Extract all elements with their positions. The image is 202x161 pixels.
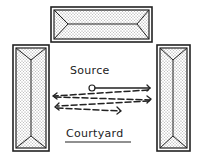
sound-paths [53,85,151,114]
top-building [51,7,152,42]
reflection-arrow-4 [57,108,120,111]
source-point-icon [89,85,95,91]
reflection-arrow-3 [57,101,149,106]
courtyard-diagram: Source Courtyard [0,0,202,161]
right-building [157,45,190,151]
reflection-arrow-1 [54,90,148,96]
left-building [13,45,49,151]
source-label: Source [70,64,110,77]
courtyard-label: Courtyard [66,127,123,140]
reflection-arrow-2 [55,97,150,100]
